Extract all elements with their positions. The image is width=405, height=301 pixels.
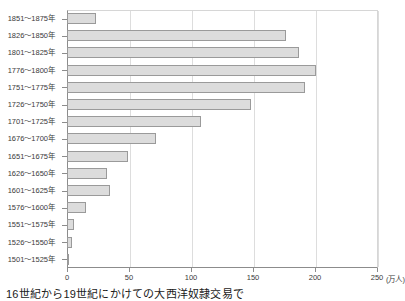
y-axis-tick-label: 1526〜1550年 (8, 234, 55, 251)
bar-row[interactable] (67, 44, 378, 61)
y-axis-tick-label: 1751〜1775年 (8, 79, 55, 96)
bar-row[interactable] (67, 62, 378, 79)
x-axis-tick-label: 50 (125, 273, 133, 282)
x-axis-unit-label: (万人) (386, 273, 405, 284)
bar-row[interactable] (67, 216, 378, 233)
plot-wrapper: 1851〜1875年1826〜1850年1801〜1825年1776〜1800年… (0, 0, 397, 283)
bar[interactable] (67, 202, 86, 213)
x-axis-tick-mark (377, 268, 378, 272)
bar[interactable] (67, 47, 299, 58)
x-axis-tick-mark (191, 268, 192, 272)
bar-row[interactable] (67, 27, 378, 44)
bar-row[interactable] (67, 96, 378, 113)
x-axis-tick-label: 0 (65, 273, 69, 282)
y-axis-tick-mark (62, 156, 67, 157)
bar[interactable] (67, 82, 305, 93)
bar[interactable] (67, 99, 251, 110)
bar[interactable] (67, 13, 96, 24)
y-axis-tick-label: 1701〜1725年 (8, 113, 55, 130)
y-axis-tick-mark (62, 191, 67, 192)
y-axis-tick-label: 1826〜1850年 (8, 27, 55, 44)
bar-row[interactable] (67, 113, 378, 130)
bar[interactable] (67, 151, 128, 162)
y-axis-tick-mark (62, 259, 67, 260)
y-axis-tick-label: 1626〜1650年 (8, 165, 55, 182)
bar[interactable] (67, 254, 69, 265)
y-axis-tick-label: 1501〜1525年 (8, 251, 55, 268)
bar-row[interactable] (67, 251, 378, 268)
bar-row[interactable] (67, 130, 378, 147)
x-axis-tick-label: 200 (309, 273, 322, 282)
bar-row[interactable] (67, 199, 378, 216)
y-axis-tick-mark (62, 139, 67, 140)
y-axis-tick-mark (62, 87, 67, 88)
bar[interactable] (67, 133, 156, 144)
y-axis-tick-mark (62, 122, 67, 123)
y-axis-tick-mark (62, 173, 67, 174)
bar-row[interactable] (67, 182, 378, 199)
y-axis-tick-mark (62, 53, 67, 54)
x-axis-tick-label: 250 (371, 273, 384, 282)
bar[interactable] (67, 219, 74, 230)
y-axis-tick-label: 1651〜1675年 (8, 148, 55, 165)
bar[interactable] (67, 237, 72, 248)
y-axis-tick-mark (62, 242, 67, 243)
y-axis-labels: 1851〜1875年1826〜1850年1801〜1825年1776〜1800年… (0, 10, 62, 268)
gridline (378, 11, 379, 267)
y-axis-tick-mark (62, 225, 67, 226)
bar-row[interactable] (67, 165, 378, 182)
x-axis-ticks: (万人) 050100150200250 (67, 268, 378, 284)
x-axis-tick-mark (315, 268, 316, 272)
bars-group (67, 10, 378, 268)
bar-row[interactable] (67, 148, 378, 165)
y-axis-tick-mark (62, 70, 67, 71)
x-axis-tick-mark (129, 268, 130, 272)
y-axis-tick-label: 1801〜1825年 (8, 44, 55, 61)
y-axis-tick-label: 1676〜1700年 (8, 130, 55, 147)
y-axis-tick-label: 1776〜1800年 (8, 62, 55, 79)
y-axis-tick-mark (62, 19, 67, 20)
y-axis-tick-label: 1726〜1750年 (8, 96, 55, 113)
y-axis-tick-mark (62, 105, 67, 106)
bar-row[interactable] (67, 10, 378, 27)
x-axis-tick-label: 150 (247, 273, 260, 282)
bar[interactable] (67, 168, 107, 179)
bar[interactable] (67, 116, 201, 127)
x-axis-tick-label: 100 (185, 273, 198, 282)
y-axis-tick-label: 1851〜1875年 (8, 10, 55, 27)
x-axis-tick-mark (253, 268, 254, 272)
y-axis-tick-label: 1601〜1625年 (8, 182, 55, 199)
x-axis-tick-mark (67, 268, 68, 272)
bar[interactable] (67, 30, 286, 41)
bar-row[interactable] (67, 79, 378, 96)
bar[interactable] (67, 65, 316, 76)
bar-row[interactable] (67, 234, 378, 251)
bar[interactable] (67, 185, 110, 196)
y-axis-tick-mark (62, 36, 67, 37)
y-axis-tick-label: 1551〜1575年 (8, 216, 55, 233)
y-axis-tick-label: 1576〜1600年 (8, 199, 55, 216)
chart-caption: 16世紀から19世紀にかけての大西洋奴隷交易で (6, 285, 244, 301)
y-axis-tick-mark (62, 208, 67, 209)
